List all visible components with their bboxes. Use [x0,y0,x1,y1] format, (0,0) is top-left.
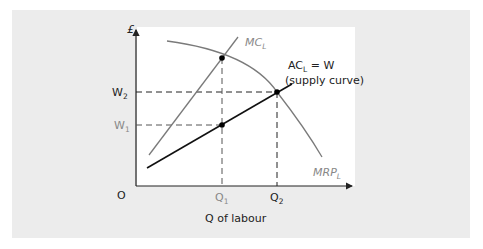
labour-market-diagram: £ O Q of labour MCL ACL = W (supply curv… [0,0,483,249]
w1-label: W1 [114,119,130,134]
q1-label: Q1 [215,191,229,206]
w2-label: W2 [112,86,128,101]
mrp-label: MRPL [313,166,341,181]
ac-label: ACL = W [288,59,334,74]
mc-curve [149,37,238,155]
origin-label: O [117,189,126,202]
x-axis-title: Q of labour [205,212,267,225]
q2-label: Q2 [270,191,284,206]
y-axis-label: £ [127,23,135,36]
point-ac-mrp [274,89,280,95]
supply-curve-note: (supply curve) [285,74,364,87]
mc-label: MCL [245,36,266,51]
point-ac-q1 [219,122,225,128]
point-mc-mrp [219,55,225,61]
